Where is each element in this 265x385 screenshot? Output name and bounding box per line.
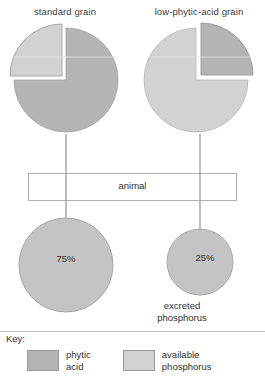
legend-items: phytic acid available phosphorus [5, 349, 260, 372]
legend-label-available-phosphorus: available phosphorus [162, 349, 212, 372]
legend-label-phytic-acid-line-1: phytic [66, 349, 91, 361]
legend-divider [0, 331, 265, 332]
outcome-caption-line-1: excreted [126, 300, 238, 312]
legend-label-phytic-acid-line-2: acid [66, 361, 91, 373]
pie-slice-phytic-acid-low-exploded [201, 23, 253, 75]
pie-chart-standard-grain [10, 24, 118, 132]
phosphorus-flow-diagram [0, 0, 265, 385]
legend-label-phytic-acid: phytic acid [66, 349, 91, 372]
legend-item-available-phosphorus: available phosphorus [123, 349, 212, 372]
legend-item-phytic-acid: phytic acid [27, 349, 91, 372]
legend-label-available-phosphorus-line-2: phosphorus [162, 361, 212, 373]
outcome-caption: excreted phosphorus [126, 300, 238, 323]
legend-label-available-phosphorus-line-1: available [162, 349, 212, 361]
legend-title: Key: [6, 333, 260, 344]
figure-canvas: standard grain low-phytic-acid grain [0, 0, 265, 385]
outcome-value-low-phytic-acid-grain: 25% [187, 252, 223, 263]
legend-swatch-available-phosphorus [123, 350, 155, 371]
outcome-circle-standard-75 [19, 218, 113, 312]
outcome-value-standard-grain: 75% [44, 253, 88, 264]
pie-chart-low-phytic-acid-grain [144, 23, 253, 132]
process-box-label: animal [28, 180, 237, 191]
outcome-caption-line-2: phosphorus [126, 312, 238, 324]
legend: Key: phytic acid available phosphorus [5, 333, 260, 372]
pie-slice-available-phosphorus-standard-exploded [10, 24, 62, 76]
legend-swatch-phytic-acid [27, 350, 59, 371]
